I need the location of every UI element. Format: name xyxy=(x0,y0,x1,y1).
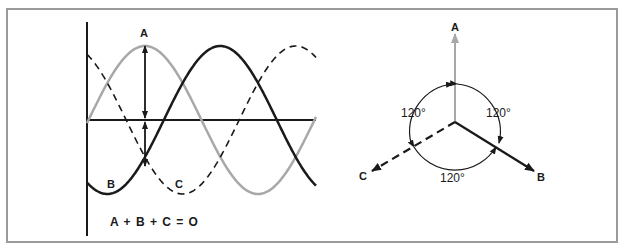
phasor-b xyxy=(455,122,534,171)
phasor-diagram: A B C 120° 120° 120° xyxy=(359,21,545,185)
phasor-c xyxy=(372,122,455,171)
three-phase-diagram: A B C A + B + C = O A B C 120° 120° 120° xyxy=(0,0,626,252)
waveform-plot: A B C A + B + C = O xyxy=(87,22,316,236)
phasor-label-a: A xyxy=(451,21,459,33)
phasor-label-c: C xyxy=(359,170,367,182)
phasor-label-b: B xyxy=(537,171,545,183)
angle-label-bottom: 120° xyxy=(440,171,465,185)
wave-label-c: C xyxy=(175,178,183,190)
angle-label-left: 120° xyxy=(401,106,426,120)
wave-label-a: A xyxy=(140,27,148,39)
angle-label-right: 120° xyxy=(486,106,511,120)
equation-text: A + B + C = O xyxy=(110,215,198,229)
arc-bottom xyxy=(414,147,496,170)
wave-label-b: B xyxy=(107,178,115,190)
